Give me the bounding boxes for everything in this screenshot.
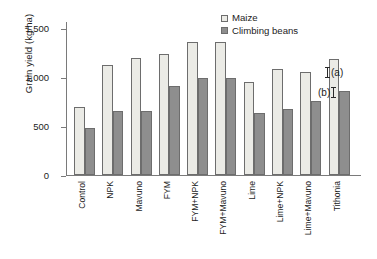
x-axis-category-labels: ControlNPKMavunoFYMFYM+NPKFYM+MavunoLime… bbox=[66, 179, 357, 257]
x-axis-label: NPK bbox=[102, 179, 130, 257]
bar-group bbox=[187, 22, 215, 175]
bar-maize bbox=[159, 54, 170, 175]
bar-group bbox=[300, 22, 328, 175]
x-axis-label: FYM+Mavuno bbox=[215, 179, 243, 257]
y-axis-title: Grain yield (kg/ha) bbox=[23, 0, 34, 129]
bar-beans bbox=[169, 86, 180, 175]
bar-maize bbox=[215, 42, 226, 175]
legend-item-maize: Maize bbox=[221, 12, 298, 25]
bar-maize bbox=[300, 72, 311, 175]
legend-swatch-beans-icon bbox=[221, 27, 228, 34]
chart-figure: Grain yield (kg/ha) 1,500 1,000 500 0 Co… bbox=[0, 0, 377, 259]
x-axis-label-text: FYM bbox=[162, 181, 172, 199]
y-tick-label-500: 500 bbox=[0, 122, 49, 132]
x-axis-label: Control bbox=[74, 179, 102, 257]
bar-group bbox=[102, 22, 130, 175]
x-axis-label-text: NPK bbox=[105, 181, 115, 199]
y-tick-label-1500: 1,500 bbox=[0, 24, 49, 34]
bar-maize bbox=[187, 42, 198, 175]
chart-legend: Maize Climbing beans bbox=[221, 12, 298, 37]
bar-group bbox=[159, 22, 187, 175]
x-axis-label: FYM bbox=[159, 179, 187, 257]
bar-group bbox=[131, 22, 159, 175]
bar-beans bbox=[254, 113, 265, 175]
bar-maize bbox=[131, 58, 142, 175]
y-tick-label-1000: 1,000 bbox=[0, 73, 49, 83]
x-axis-label: Lime bbox=[244, 179, 272, 257]
bar-group bbox=[329, 22, 357, 175]
bar-maize bbox=[272, 69, 283, 175]
error-bar-i-icon bbox=[331, 87, 336, 98]
y-tick-1500 bbox=[61, 29, 66, 30]
bar-beans bbox=[198, 78, 209, 175]
x-axis-label-text: Control bbox=[77, 181, 87, 209]
bar-beans bbox=[85, 128, 96, 175]
bar-beans bbox=[226, 78, 237, 175]
legend-label-maize: Maize bbox=[232, 12, 258, 25]
x-axis-label-text: Lime+Mavuno bbox=[303, 181, 313, 235]
x-axis-label: FYM+NPK bbox=[187, 179, 215, 257]
bar-maize bbox=[74, 107, 85, 175]
bar-beans bbox=[339, 91, 350, 175]
bar-maize bbox=[244, 82, 255, 175]
x-axis-label-text: Tithonia bbox=[332, 181, 342, 211]
bar-group bbox=[74, 22, 102, 175]
bar-beans bbox=[311, 101, 322, 175]
x-axis-label-text: Lime bbox=[247, 181, 257, 200]
bar-beans bbox=[141, 111, 152, 175]
legend-label-climbing-beans: Climbing beans bbox=[232, 25, 298, 38]
annotation-error-bar-a: (a) bbox=[325, 67, 343, 78]
annotation-label-a: (a) bbox=[331, 67, 343, 78]
x-axis-label-text: FYM+NPK bbox=[190, 181, 200, 222]
legend-item-climbing-beans: Climbing beans bbox=[221, 25, 298, 38]
x-axis-label: Mavuno bbox=[131, 179, 159, 257]
x-axis-label: Lime+Mavuno bbox=[300, 179, 328, 257]
annotation-error-bar-b: (b) bbox=[318, 87, 336, 98]
annotation-label-b: (b) bbox=[318, 87, 330, 98]
plot-area: 1,500 1,000 500 0 bbox=[66, 22, 357, 176]
bar-group bbox=[244, 22, 272, 175]
bar-group bbox=[215, 22, 243, 175]
x-axis-label-text: Lime+NPK bbox=[275, 181, 285, 222]
y-tick-label-0: 0 bbox=[0, 171, 49, 181]
bar-group bbox=[272, 22, 300, 175]
y-tick-1000 bbox=[61, 78, 66, 79]
bar-beans bbox=[113, 111, 124, 175]
x-axis-label: Lime+NPK bbox=[272, 179, 300, 257]
bar-beans bbox=[283, 109, 294, 175]
bar-maize bbox=[102, 65, 113, 175]
bar-groups bbox=[67, 22, 357, 175]
x-axis-label: Tithonia bbox=[329, 179, 357, 257]
y-tick-500 bbox=[61, 127, 66, 128]
x-axis-label-text: FYM+Mavuno bbox=[218, 181, 228, 235]
y-tick-0 bbox=[61, 176, 66, 177]
legend-swatch-maize-icon bbox=[221, 15, 228, 22]
x-axis-label-text: Mavuno bbox=[134, 181, 144, 212]
error-bar-i-icon bbox=[325, 67, 330, 78]
